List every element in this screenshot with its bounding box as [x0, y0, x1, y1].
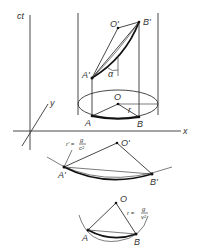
segment-O'B' — [118, 22, 139, 28]
label-O: O — [114, 92, 121, 102]
middle-label-O-prime: O' — [121, 138, 130, 148]
lower-radius-numerator: g — [142, 206, 146, 212]
middle-radius-pointer — [64, 150, 72, 167]
lower-segment-OA — [88, 203, 116, 230]
arc-AB — [92, 116, 139, 119]
middle-label-A-prime: A' — [57, 170, 66, 180]
point-A — [91, 115, 94, 118]
y-axis-label: y — [49, 98, 55, 108]
lower-arc-AB — [88, 230, 136, 238]
middle-radius-numerator: g — [80, 137, 84, 143]
lower-label-O: O — [120, 194, 127, 204]
radius-label: r — [128, 105, 132, 115]
label-A-prime: A' — [81, 70, 90, 80]
middle-diagram: O' A' B' r' = g c² — [47, 137, 172, 187]
label-A: A — [84, 118, 91, 128]
point-A-prime — [91, 77, 94, 80]
alpha-label: α — [108, 69, 114, 79]
ct-axis-label: ct — [17, 11, 25, 21]
middle-point-O-prime — [116, 142, 119, 145]
lower-label-A: A — [81, 233, 88, 243]
middle-radius-lhs: r' = — [66, 141, 75, 147]
middle-radius-denominator: c² — [79, 145, 85, 151]
segment-OA — [92, 104, 118, 116]
y-axis — [22, 104, 48, 146]
point-O — [117, 103, 120, 106]
label-B: B — [137, 119, 143, 129]
middle-label-B-prime: B' — [150, 177, 158, 187]
lower-point-A — [87, 229, 90, 232]
lower-diagram: O A B r = g v² — [79, 194, 148, 247]
chord-A'B' — [92, 22, 139, 78]
label-B-prime: B' — [143, 17, 151, 27]
lower-segment-OB — [116, 203, 136, 234]
middle-point-A-prime — [63, 166, 66, 169]
label-O-prime: O' — [110, 19, 119, 29]
lower-point-B — [135, 233, 138, 236]
x-axis-label: x — [182, 126, 188, 136]
point-B — [138, 116, 141, 119]
upper-diagram: ct x y r α — [13, 11, 188, 150]
lower-point-O — [115, 202, 118, 205]
point-B-prime — [138, 21, 141, 24]
spacetime-diagram: ct x y r α — [0, 0, 198, 252]
lower-radius-denominator: v² — [141, 214, 147, 220]
lower-label-B: B — [134, 237, 140, 247]
lower-radius-lhs: r = — [127, 210, 135, 216]
middle-point-B-prime — [151, 173, 154, 176]
